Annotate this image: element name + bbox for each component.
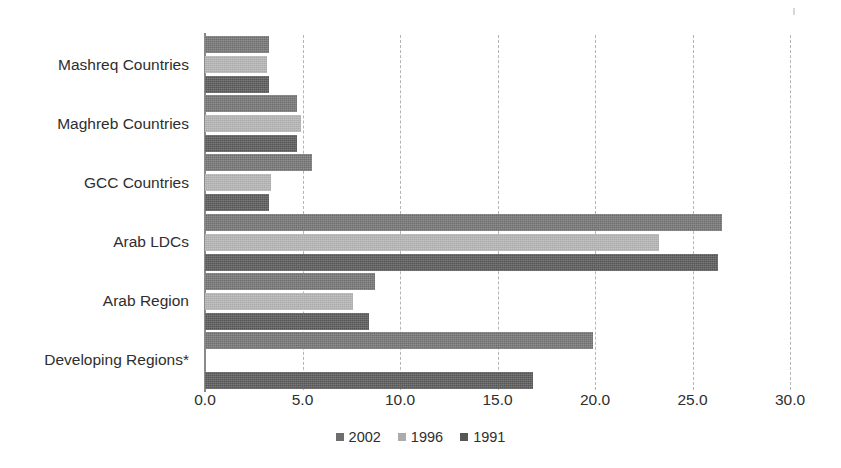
x-tick-label-20.0: 20.0 xyxy=(580,392,610,408)
bar-1996-maghreb-countries xyxy=(205,115,301,132)
bar-1991-gcc-countries xyxy=(205,194,269,211)
bar-2002-maghreb-countries xyxy=(205,95,297,112)
category-label-maghreb-countries: Maghreb Countries xyxy=(0,116,189,132)
legend-item-1996: 1996 xyxy=(398,430,443,445)
bar-1996-arab-ldcs xyxy=(205,234,659,251)
x-tick-label-15.0: 15.0 xyxy=(482,392,512,408)
legend-item-1991: 1991 xyxy=(460,430,505,445)
bar-2002-arab-region xyxy=(205,273,375,290)
x-tick-label-10.0: 10.0 xyxy=(385,392,415,408)
bar-1991-mashreq-countries xyxy=(205,76,269,93)
gridline-25.0 xyxy=(693,35,695,390)
legend-label-2002: 2002 xyxy=(349,430,381,445)
bar-1996-gcc-countries xyxy=(205,174,271,191)
x-tick-label-0.0: 0.0 xyxy=(194,392,216,408)
x-tick-label-5.0: 5.0 xyxy=(292,392,314,408)
legend-swatch-icon-2002 xyxy=(336,433,344,441)
bar-2002-developing-regions xyxy=(205,332,593,349)
bar-2002-gcc-countries xyxy=(205,154,312,171)
legend-label-1996: 1996 xyxy=(411,430,443,445)
category-label-arab-ldcs: Arab LDCs xyxy=(0,234,189,250)
horizontal-bar-chart: Mashreq CountriesMaghreb CountriesGCC Co… xyxy=(0,0,841,468)
bar-2002-mashreq-countries xyxy=(205,36,269,53)
legend-swatch-icon-1996 xyxy=(398,433,406,441)
bar-1991-arab-ldcs xyxy=(205,254,718,271)
bar-1991-arab-region xyxy=(205,313,369,330)
chart-legend: 200219961991 xyxy=(0,430,841,445)
category-axis-labels: Mashreq CountriesMaghreb CountriesGCC Co… xyxy=(0,35,197,390)
bar-1991-developing-regions xyxy=(205,372,533,389)
x-tick-label-30.0: 30.0 xyxy=(775,392,805,408)
gridline-20.0 xyxy=(595,35,597,390)
legend-label-1991: 1991 xyxy=(473,430,505,445)
plot-area xyxy=(205,35,790,390)
bar-2002-arab-ldcs xyxy=(205,214,722,231)
category-label-developing-regions: Developing Regions* xyxy=(0,352,189,368)
x-tick-label-25.0: 25.0 xyxy=(677,392,707,408)
page-corner-mark xyxy=(793,8,795,15)
category-label-arab-region: Arab Region xyxy=(0,293,189,309)
x-axis-tick-labels: 0.05.010.015.020.025.030.0 xyxy=(205,392,790,414)
category-label-gcc-countries: GCC Countries xyxy=(0,175,189,191)
category-label-mashreq-countries: Mashreq Countries xyxy=(0,57,189,73)
bar-1996-mashreq-countries xyxy=(205,56,267,73)
legend-item-2002: 2002 xyxy=(336,430,381,445)
bar-1996-arab-region xyxy=(205,293,353,310)
gridline-30.0 xyxy=(790,35,792,390)
bar-1991-maghreb-countries xyxy=(205,135,297,152)
legend-swatch-icon-1991 xyxy=(460,433,468,441)
